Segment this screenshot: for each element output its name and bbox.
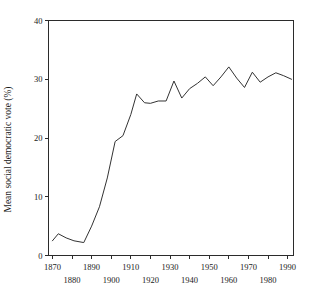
x-tick-label-upper: 1990 bbox=[279, 262, 296, 272]
plot-frame-path bbox=[49, 21, 294, 256]
data-series-line bbox=[52, 67, 291, 243]
figure-container: 010203040 1870189019101930195019701990 1… bbox=[0, 0, 309, 299]
x-tick-label-lower: 1920 bbox=[142, 275, 159, 285]
caption-sliver bbox=[6, 292, 306, 299]
y-tick-label: 0 bbox=[38, 251, 42, 261]
y-tick-label: 40 bbox=[34, 16, 43, 26]
x-tick-label-upper: 1970 bbox=[240, 262, 257, 272]
x-tick-label-lower: 1940 bbox=[181, 275, 198, 285]
x-axis-tick-labels-upper: 1870189019101930195019701990 bbox=[44, 262, 296, 272]
x-tick-label-upper: 1890 bbox=[83, 262, 100, 272]
y-tick-label: 20 bbox=[34, 133, 43, 143]
x-axis-ticks bbox=[52, 256, 287, 260]
y-tick-label: 30 bbox=[34, 74, 43, 84]
y-axis-tick-labels: 010203040 bbox=[34, 16, 43, 261]
data-series-group bbox=[52, 67, 291, 243]
x-tick-label-lower: 1880 bbox=[64, 275, 81, 285]
x-tick-label-lower: 1980 bbox=[260, 275, 277, 285]
x-tick-label-upper: 1870 bbox=[44, 262, 61, 272]
x-tick-label-lower: 1960 bbox=[220, 275, 237, 285]
x-axis-tick-labels-lower: 188019001920194019601980 bbox=[64, 275, 277, 285]
x-tick-label-upper: 1910 bbox=[122, 262, 139, 272]
x-tick-label-lower: 1900 bbox=[103, 275, 120, 285]
x-tick-label-upper: 1950 bbox=[201, 262, 218, 272]
x-tick-label-upper: 1930 bbox=[162, 262, 179, 272]
y-tick-label: 10 bbox=[34, 192, 43, 202]
y-axis-ticks bbox=[45, 21, 49, 256]
plot-frame bbox=[49, 21, 294, 256]
line-chart: 010203040 1870189019101930195019701990 1… bbox=[0, 0, 309, 299]
